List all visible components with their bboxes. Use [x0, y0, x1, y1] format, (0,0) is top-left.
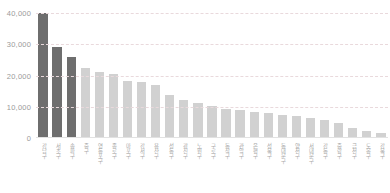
x-label-slot: 종로구 — [106, 142, 120, 193]
bar[interactable] — [221, 109, 230, 138]
bar[interactable] — [292, 116, 301, 138]
bar[interactable] — [151, 85, 160, 138]
bar[interactable] — [165, 95, 174, 138]
x-label-slot: 관악구 — [233, 142, 247, 193]
y-axis-tick-label: 10,000 — [7, 102, 31, 111]
x-axis-tick-label: 성북구 — [265, 142, 271, 158]
gridline — [36, 13, 388, 14]
x-axis-tick-label: 마포구 — [125, 142, 131, 158]
plot-area — [36, 13, 388, 138]
x-label-slot: 중구 — [78, 142, 92, 193]
x-axis-tick-label: 광진구 — [181, 142, 187, 158]
bar[interactable] — [207, 106, 216, 138]
bar[interactable] — [123, 81, 132, 138]
x-axis-tick-label: 동작구 — [223, 142, 229, 158]
x-label-slot: 성북구 — [261, 142, 275, 193]
gridline — [36, 76, 388, 77]
bar[interactable] — [179, 100, 188, 138]
x-label-slot: 광진구 — [177, 142, 191, 193]
x-axis-tick-label: 강북구 — [378, 142, 384, 158]
y-axis-tick-label: 30,000 — [7, 40, 31, 49]
x-axis-tick-label: 중구 — [82, 142, 88, 153]
x-label-slot: 은평구 — [247, 142, 261, 193]
x-axis-tick-label: 영등포구 — [97, 142, 103, 163]
bar[interactable] — [52, 47, 61, 138]
x-axis-tick-label: 서대문구 — [308, 142, 314, 163]
x-label-slot: 송파구 — [64, 142, 78, 193]
x-axis-tick-label: 은평구 — [251, 142, 257, 158]
bar[interactable] — [320, 120, 329, 138]
x-axis-tick-label: 용산구 — [153, 142, 159, 158]
x-label-slot: 서대문구 — [303, 142, 317, 193]
x-label-slot: 동대문구 — [275, 142, 289, 193]
x-axis-tick-label: 양천구 — [294, 142, 300, 158]
x-axis-tick-label: 관악구 — [237, 142, 243, 158]
x-label-slot: 강서구 — [135, 142, 149, 193]
x-label-slot: 중랑구 — [332, 142, 346, 193]
x-label-slot: 영등포구 — [92, 142, 106, 193]
x-axis-tick-label: 강서구 — [139, 142, 145, 158]
x-label-slot: 양천구 — [289, 142, 303, 193]
x-label-slot: 용산구 — [149, 142, 163, 193]
y-axis-tick-label: 0 — [27, 134, 31, 143]
x-axis-tick-label: 성동구 — [167, 142, 173, 158]
x-axis-tick-label: 송파구 — [68, 142, 74, 158]
y-axis: 010,00020,00030,00040,000 — [0, 0, 34, 141]
bar[interactable] — [67, 57, 76, 138]
x-label-slot: 동작구 — [219, 142, 233, 193]
x-label-slot: 도봉구 — [360, 142, 374, 193]
bar[interactable] — [250, 112, 259, 138]
x-label-slot: 금천구 — [346, 142, 360, 193]
bar[interactable] — [306, 118, 315, 138]
x-axis-tick-label: 중랑구 — [336, 142, 342, 158]
x-axis-tick-label: 도봉구 — [364, 142, 370, 158]
axis-baseline — [36, 137, 388, 138]
gridline — [36, 44, 388, 45]
y-axis-tick-label: 20,000 — [7, 71, 31, 80]
x-axis-tick-label: 강동구 — [322, 142, 328, 158]
x-label-slot: 강북구 — [374, 142, 388, 193]
y-axis-tick-label: 40,000 — [7, 9, 31, 18]
x-label-slot: 노원구 — [191, 142, 205, 193]
bar[interactable] — [264, 113, 273, 138]
x-label-slot: 강남구 — [36, 142, 50, 193]
bar-chart: 010,00020,00030,00040,000 강남구서초구송파구중구영등포… — [0, 0, 390, 193]
x-axis-tick-label: 종로구 — [111, 142, 117, 158]
bar[interactable] — [95, 72, 104, 138]
x-label-slot: 성동구 — [163, 142, 177, 193]
gridline — [36, 107, 388, 108]
bar[interactable] — [235, 110, 244, 138]
x-axis-tick-label: 서초구 — [54, 142, 60, 158]
x-label-slot: 구로구 — [205, 142, 219, 193]
x-label-slot: 강동구 — [318, 142, 332, 193]
bar[interactable] — [137, 82, 146, 138]
bar[interactable] — [81, 68, 90, 138]
x-axis-tick-label: 동대문구 — [280, 142, 286, 163]
x-label-slot: 서초구 — [50, 142, 64, 193]
x-axis-tick-label: 강남구 — [40, 142, 46, 158]
x-axis-tick-label: 노원구 — [195, 142, 201, 158]
bar[interactable] — [334, 123, 343, 138]
x-axis-tick-label: 구로구 — [209, 142, 215, 158]
bar[interactable] — [278, 115, 287, 138]
x-label-slot: 마포구 — [120, 142, 134, 193]
x-axis-tick-label: 금천구 — [350, 142, 356, 158]
x-axis-labels: 강남구서초구송파구중구영등포구종로구마포구강서구용산구성동구광진구노원구구로구동… — [36, 142, 388, 193]
bar[interactable] — [193, 103, 202, 138]
